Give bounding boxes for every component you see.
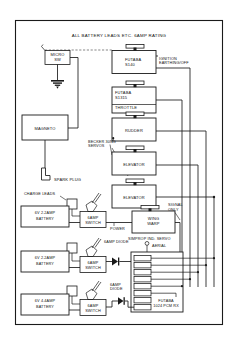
switch-1-label-2: SWITCH	[85, 221, 101, 225]
battery-1-component: 6V 2.2AMP BATTERY	[21, 206, 69, 227]
diode-1-label: 6AMP DIODE	[104, 240, 129, 244]
servo-elevator-1-label: ELEVATOR	[123, 162, 145, 167]
battery-3-label-2: BATTERY	[36, 305, 54, 309]
becker-label-1: BECKER 30NG	[88, 140, 116, 144]
signal-only-label-1: SIGNAL	[168, 203, 183, 207]
micro-switch-label-2: SW	[54, 57, 61, 62]
receiver-port-8[interactable]	[134, 305, 151, 310]
battery-2-label-1: 6V 2.2AMP	[35, 256, 56, 260]
servo-wing-warp-label-2: WARP	[147, 221, 160, 226]
receiver-port-4[interactable]	[134, 277, 151, 282]
servo-elevator-2-hub	[134, 182, 137, 185]
receiver-label-1: FUTABA	[158, 299, 174, 303]
battery-2-label-2: BATTERY	[36, 262, 54, 266]
servo-throttle-label-3: THROTTLE	[115, 105, 137, 110]
wiring-diagram: ALL BATTERY LEADS ETC. 6AMP RATING MICRO…	[0, 0, 238, 341]
aerial-tip-icon	[145, 242, 149, 246]
becker-label-2: SERVOS	[88, 144, 105, 148]
servo-s140-hub	[134, 48, 137, 51]
diode-2-label-1: 6AMP	[110, 283, 121, 287]
receiver-port-2[interactable]	[134, 263, 151, 268]
receiver-port-1[interactable]	[134, 256, 151, 261]
servo-wing-warp-hub	[149, 208, 152, 211]
receiver-component: FUTABA 1024 PCM RX	[131, 252, 183, 312]
junction-dot-trunk-3	[197, 271, 199, 273]
junction-dot-trunk-1	[213, 257, 215, 259]
ignition-label-1: IGNITION	[159, 57, 177, 61]
switch-3-label-1: 6AMP	[88, 304, 99, 308]
servo-throttle-label-2: S1315	[115, 95, 128, 100]
aerial-label: AERIAL	[152, 244, 166, 248]
servo-s140-label-2: S140	[125, 62, 135, 67]
servo-rudder-label: RUDDER	[125, 128, 143, 133]
junction-dot-trunk-4	[189, 278, 191, 280]
junction-dot-trunk-2	[205, 264, 207, 266]
diode-1-bar	[118, 258, 119, 266]
diagram-title: ALL BATTERY LEADS ETC. 6AMP RATING	[72, 33, 167, 38]
switch-1-label-1: 6AMP	[88, 216, 99, 220]
servo-elevator-2-label: ELEVATOR	[123, 195, 145, 200]
ignition-label-2: EARTHING/OFF	[159, 61, 189, 65]
battery-3-label-1: 6V 4.4AMP	[35, 299, 56, 303]
diode-2-label-2: DIODE	[110, 287, 123, 291]
power-label: POWER	[110, 227, 125, 231]
junction-dot-trunk-5	[181, 285, 183, 287]
receiver-port-3[interactable]	[134, 270, 151, 275]
simprop-label: SIMPROP IND. SERVO	[128, 237, 171, 241]
schematic-canvas: ALL BATTERY LEADS ETC. 6AMP RATING MICRO…	[0, 0, 238, 341]
switch-2-label-2: SWITCH	[85, 266, 101, 270]
spark-plug-label: SPARK PLUG	[54, 177, 81, 182]
diode-2-bar	[124, 297, 125, 305]
battery-1-label-2: BATTERY	[36, 217, 54, 221]
battery-1-label-1: 6V 2.2AMP	[35, 211, 56, 215]
signal-only-label-2: ONLY	[168, 208, 179, 212]
receiver-label-2: 1024 PCM RX	[153, 304, 179, 308]
receiver-port-5[interactable]	[134, 284, 151, 289]
receiver-port-7[interactable]	[134, 298, 151, 303]
battery-2-component: 6V 2.2AMP BATTERY	[21, 251, 69, 272]
battery-3-component: 6V 4.4AMP BATTERY	[21, 294, 69, 315]
becker-leader-dot	[112, 137, 114, 139]
charge-leads-label: CHARGE LEADS	[24, 192, 56, 196]
switch-2-label-1: 6AMP	[88, 261, 99, 265]
servo-throttle-hub	[134, 84, 137, 87]
junction-dot-elev2	[213, 196, 215, 198]
servo-rudder-hub	[134, 115, 137, 118]
magneto-component: MAGNETO	[22, 115, 68, 140]
servo-elevator-1-hub	[134, 149, 137, 152]
magneto-label: MAGNETO	[35, 126, 56, 131]
receiver-port-6[interactable]	[134, 291, 151, 296]
switch-3-label-2: SWITCH	[85, 309, 101, 313]
